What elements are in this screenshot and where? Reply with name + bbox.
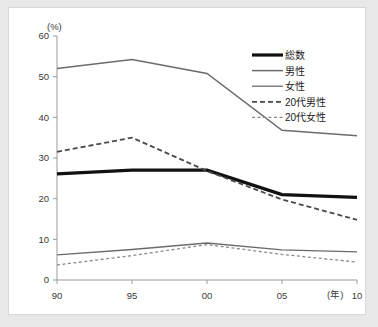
y-tick-label: 20	[38, 193, 49, 204]
y-tick-label: 10	[38, 234, 49, 245]
series-line-20代女性	[57, 245, 357, 265]
legend-label-総数: 総数	[285, 49, 305, 61]
legend-label-20代女性: 20代女性	[285, 111, 326, 123]
x-tick-label: 05	[277, 290, 288, 301]
series-line-20代男性	[57, 138, 357, 220]
y-axis: 0102030405060	[38, 30, 57, 285]
series-lines	[57, 60, 357, 265]
y-tick-label: 0	[44, 274, 49, 285]
legend-label-20代男性: 20代男性	[285, 96, 326, 108]
chart-figure: 0102030405060 9095000510 総数男性女性20代男性20代女…	[8, 7, 366, 315]
x-tick-label: 95	[127, 290, 138, 301]
x-tick-label: 00	[202, 290, 213, 301]
x-axis-unit-label: (年)	[327, 289, 343, 300]
y-tick-label: 50	[38, 71, 49, 82]
y-tick-label: 30	[38, 152, 49, 163]
x-tick-label: 90	[52, 290, 63, 301]
x-tick-label: 10	[352, 290, 363, 301]
chart-legend: 総数男性女性20代男性20代女性	[252, 49, 326, 123]
x-axis: 9095000510	[52, 280, 363, 301]
series-line-総数	[57, 170, 357, 197]
legend-label-男性: 男性	[285, 65, 305, 77]
legend-label-女性: 女性	[285, 80, 305, 92]
y-tick-label: 60	[38, 30, 49, 41]
line-chart-svg: 0102030405060 9095000510 総数男性女性20代男性20代女…	[9, 8, 365, 314]
plot-area: 0102030405060 9095000510 総数男性女性20代男性20代女…	[9, 8, 365, 314]
y-axis-unit-label: (%)	[47, 21, 62, 32]
y-tick-label: 40	[38, 112, 49, 123]
